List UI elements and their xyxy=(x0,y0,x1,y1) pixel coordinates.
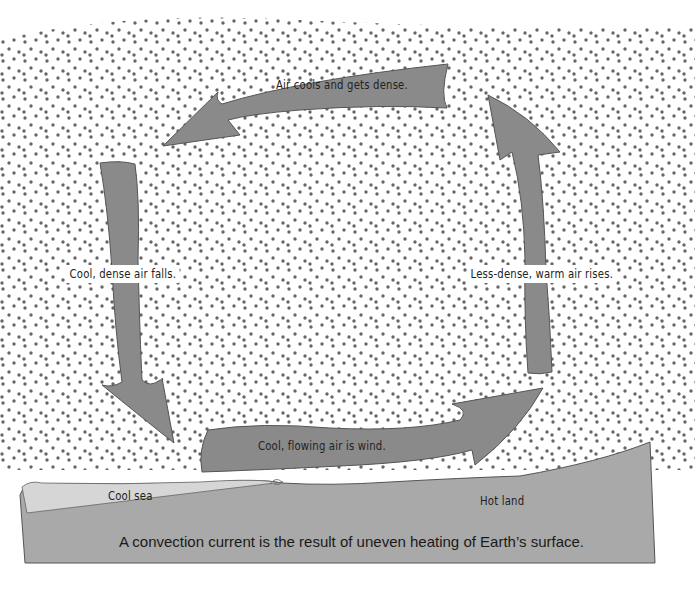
label-left-arrow: Cool, dense air falls. xyxy=(66,265,180,283)
label-bottom-arrow: Cool, flowing air is wind. xyxy=(258,439,386,453)
caption: A convection current is the result of un… xyxy=(119,533,584,550)
label-hot-land: Hot land xyxy=(480,494,524,508)
label-right-arrow: Less-dense, warm air rises. xyxy=(467,265,617,283)
label-cool-sea: Cool sea xyxy=(108,489,153,503)
label-top-arrow: Air cools and gets dense. xyxy=(276,78,408,92)
